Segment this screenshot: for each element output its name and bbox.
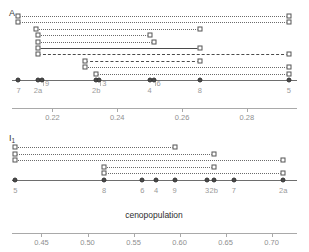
- link-endpoint-node: [102, 164, 107, 169]
- axis-tick-label: 0.65: [218, 238, 233, 247]
- group-label: 8: [102, 186, 106, 195]
- link-endpoint-node: [197, 58, 202, 63]
- link-endpoint-node: [147, 33, 152, 38]
- axis-tick: [117, 108, 118, 112]
- axis-tick: [180, 233, 181, 237]
- group-label: 9: [172, 186, 176, 195]
- comparison-link: [104, 167, 214, 168]
- group-label: 5: [287, 86, 291, 95]
- group-point[interactable]: [140, 178, 145, 183]
- link-endpoint-node: [16, 14, 21, 19]
- comparison-link: [15, 160, 283, 161]
- comparison-link: [104, 173, 283, 174]
- axis-tick-label: 0.26: [175, 113, 190, 122]
- link-endpoint-node: [286, 71, 291, 76]
- panel-i1-scale: 0.450.500.550.600.650.70: [0, 225, 309, 247]
- axis-tick: [226, 233, 227, 237]
- link-endpoint-node: [35, 33, 40, 38]
- group-point[interactable]: [102, 178, 107, 183]
- label-leader-line: [43, 82, 44, 86]
- panel-a-scale: 0.220.240.260.28: [0, 100, 309, 122]
- group-label: 3: [102, 79, 106, 88]
- link-endpoint-node: [13, 145, 18, 150]
- link-endpoint-node: [151, 39, 156, 44]
- link-endpoint-node: [281, 158, 286, 163]
- link-endpoint-node: [82, 65, 87, 70]
- link-endpoint-node: [94, 71, 99, 76]
- group-label: 2a: [34, 86, 42, 95]
- axis-tick: [41, 233, 42, 237]
- comparison-link: [18, 16, 288, 17]
- group-label: 5: [13, 186, 17, 195]
- group-label: 4: [148, 86, 152, 95]
- axis-tick: [88, 233, 89, 237]
- comparison-link: [18, 22, 288, 23]
- link-endpoint-node: [197, 46, 202, 51]
- comparison-link: [85, 67, 289, 68]
- group-point[interactable]: [197, 78, 202, 83]
- link-endpoint-node: [102, 171, 107, 176]
- panel-a: A 72a92b34685 0.220.240.260.28: [0, 0, 309, 125]
- link-endpoint-node: [13, 151, 18, 156]
- link-endpoint-node: [172, 145, 177, 150]
- comparison-link: [15, 147, 174, 148]
- link-endpoint-node: [35, 52, 40, 57]
- group-point[interactable]: [13, 178, 18, 183]
- group-point[interactable]: [286, 78, 291, 83]
- comparison-link: [38, 35, 150, 36]
- panel-i1: I1 5864932b72a cenopopulation 0.450.500.…: [0, 125, 309, 252]
- group-label: 6: [156, 79, 160, 88]
- axis-tick-label: 0.45: [34, 238, 49, 247]
- group-label: 2a: [279, 186, 287, 195]
- comparison-link: [38, 42, 154, 43]
- axis-tick-label: 0.50: [80, 238, 95, 247]
- group-point[interactable]: [16, 78, 21, 83]
- link-endpoint-node: [211, 164, 216, 169]
- axis-tick-label: 0.22: [45, 113, 60, 122]
- link-endpoint-node: [281, 171, 286, 176]
- group-label: 6: [140, 186, 144, 195]
- axis-title: cenopopulation: [125, 210, 183, 220]
- axis-tick: [182, 108, 183, 112]
- group-label: 9: [45, 79, 49, 88]
- group-point[interactable]: [281, 178, 286, 183]
- comparison-link: [15, 154, 213, 155]
- group-label: 2b: [92, 86, 100, 95]
- axis-tick-label: 0.24: [110, 113, 125, 122]
- axis-tick-label: 0.60: [172, 238, 187, 247]
- scale-bar: [12, 108, 297, 109]
- group-point[interactable]: [154, 178, 159, 183]
- group-point[interactable]: [172, 178, 177, 183]
- axis-tick-label: 0.70: [264, 238, 279, 247]
- group-label: 2b: [209, 186, 217, 195]
- group-point[interactable]: [211, 178, 216, 183]
- group-label: 7: [16, 86, 20, 95]
- link-endpoint-node: [286, 65, 291, 70]
- group-label: 7: [232, 186, 236, 195]
- label-leader-line: [100, 82, 101, 86]
- link-endpoint-node: [33, 26, 38, 31]
- link-endpoint-node: [197, 26, 202, 31]
- group-point[interactable]: [231, 178, 236, 183]
- link-endpoint-node: [286, 20, 291, 25]
- scale-bar: [12, 233, 297, 234]
- comparison-link: [38, 54, 289, 55]
- group-label: 4: [154, 186, 158, 195]
- label-leader-line: [155, 82, 156, 86]
- figure-canvas: A 72a92b34685 0.220.240.260.28 I1 586493…: [0, 0, 309, 252]
- group-point[interactable]: [205, 178, 210, 183]
- link-endpoint-node: [286, 52, 291, 57]
- comparison-link: [85, 61, 200, 62]
- axis-tick: [272, 233, 273, 237]
- comparison-link: [38, 48, 200, 49]
- group-label: 8: [198, 86, 202, 95]
- link-endpoint-node: [211, 151, 216, 156]
- link-endpoint-node: [286, 14, 291, 19]
- axis-tick: [134, 233, 135, 237]
- comparison-link: [96, 74, 289, 75]
- comparison-link: [36, 29, 200, 30]
- link-endpoint-node: [16, 20, 21, 25]
- axis-tick: [52, 108, 53, 112]
- link-endpoint-node: [35, 39, 40, 44]
- link-endpoint-node: [13, 158, 18, 163]
